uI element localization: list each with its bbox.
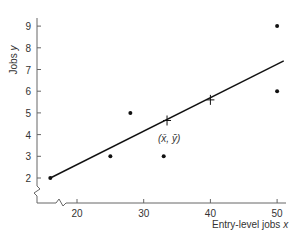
data-point [48, 176, 52, 180]
x-axis-label: Entry-level jobs x [212, 219, 289, 230]
data-point [275, 24, 279, 28]
svg-text:40: 40 [205, 208, 217, 219]
data-point [275, 89, 279, 93]
data-point [162, 154, 166, 158]
svg-text:2: 2 [25, 173, 31, 184]
svg-text:50: 50 [272, 208, 284, 219]
svg-text:9: 9 [25, 21, 31, 32]
ticks: 2345678920304050 [25, 21, 283, 219]
mean-annotation: (x̄, ȳ) [158, 133, 180, 144]
mean-markers [163, 95, 214, 126]
y-axis-label: Jobs y [8, 45, 19, 75]
data-point [128, 111, 132, 115]
svg-text:5: 5 [25, 108, 31, 119]
svg-text:20: 20 [71, 208, 83, 219]
data-points [48, 24, 279, 180]
axes [34, 18, 286, 206]
data-point [108, 154, 112, 158]
scatter-chart: 2345678920304050 Jobs y Entry-level jobs… [0, 0, 296, 238]
svg-text:30: 30 [138, 208, 150, 219]
svg-text:8: 8 [25, 43, 31, 54]
svg-text:6: 6 [25, 86, 31, 97]
svg-text:4: 4 [25, 130, 31, 141]
svg-text:7: 7 [25, 65, 31, 76]
svg-text:3: 3 [25, 151, 31, 162]
